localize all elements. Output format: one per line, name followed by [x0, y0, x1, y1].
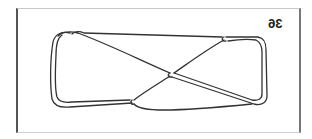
crossing-hook-top-right [222, 37, 226, 41]
diagonal-center-to-bottom-left [134, 76, 170, 100]
left-outer-strand [51, 32, 132, 107]
right-outer-strand [172, 37, 267, 105]
diagonal-top-left-to-center [78, 33, 170, 73]
crossing-hook-bottom-left [131, 100, 134, 104]
diagonal-center-to-top-right [174, 40, 224, 73]
knot-diagram [0, 0, 312, 139]
right-inner-strand [174, 39, 262, 100]
bottom-strand [134, 104, 252, 110]
left-inner-strand [55, 35, 130, 102]
top-strand [72, 32, 222, 37]
crossing-hook-center [168, 73, 172, 77]
